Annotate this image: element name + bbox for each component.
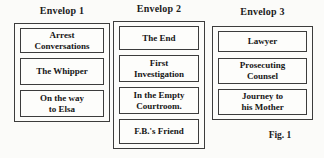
chapter-item: The Whipper (20, 58, 104, 85)
envelope-3-title: Envelop 3 (212, 6, 313, 17)
envelope-2-title: Envelop 2 (113, 3, 205, 14)
chapter-item: Prosecuting Counsel (218, 58, 307, 84)
figure-caption: Fig. 1 (258, 130, 302, 140)
chapter-item: Journey to his Mother (218, 89, 307, 115)
envelope-2-box: The End First Investigation In the Empty… (113, 21, 205, 149)
chapter-item: On the way to Elsa (20, 90, 104, 117)
envelope-1-title: Envelop 1 (14, 5, 110, 16)
figure-canvas: Envelop 1 Envelop 2 Envelop 3 Arrest Con… (0, 0, 324, 158)
chapter-item: First Investigation (119, 55, 199, 82)
envelope-3-box: Lawyer Prosecuting Counsel Journey to hi… (212, 26, 313, 120)
chapter-item: The End (119, 26, 199, 50)
chapter-item: Arrest Conversations (20, 28, 104, 53)
chapter-item: Lawyer (218, 31, 307, 52)
chapter-item: In the Empty Courtroom. (119, 87, 199, 114)
envelope-1-box: Arrest Conversations The Whipper On the … (14, 23, 110, 122)
chapter-item: F.B.'s Friend (119, 119, 199, 144)
